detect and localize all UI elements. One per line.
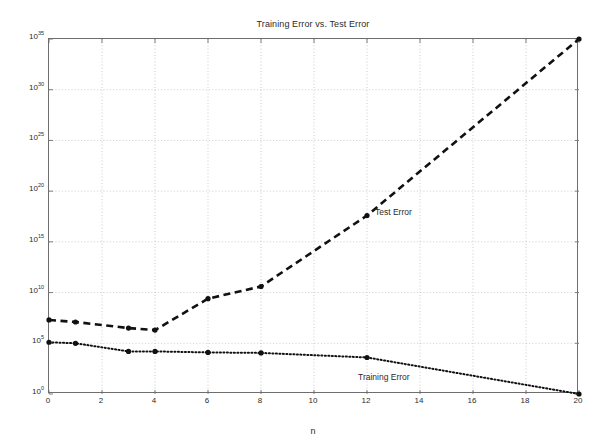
x-tick-label: 18 — [510, 397, 540, 405]
series-marker — [46, 317, 51, 322]
x-tick-label: 20 — [563, 397, 593, 405]
y-tick-label: 105 — [32, 337, 44, 345]
y-axis-tick-labels: 100105101010151020102510301035 — [0, 0, 44, 447]
series-marker — [46, 340, 51, 345]
y-tick-label: 1010 — [29, 287, 44, 295]
chart-figure: Training Error vs. Test Error 1001051010… — [0, 0, 605, 447]
series-annotation-test-error: Test Error — [375, 208, 412, 217]
series-annotation-training-error: Training Error — [358, 373, 410, 382]
y-tick-label: 1035 — [29, 33, 44, 41]
y-tick-label: 1020 — [29, 185, 44, 193]
x-tick-label: 16 — [457, 397, 487, 405]
series-marker — [126, 349, 131, 354]
x-axis-label: n — [48, 426, 578, 436]
series-marker — [576, 36, 581, 41]
y-tick-label: 1030 — [29, 84, 44, 92]
plot-canvas — [49, 39, 579, 394]
chart-title: Training Error vs. Test Error — [48, 19, 578, 29]
y-tick-label: 100 — [32, 388, 44, 396]
plot-area — [48, 38, 578, 393]
series-marker — [152, 328, 157, 333]
series-marker — [258, 284, 263, 289]
series-marker — [73, 319, 78, 324]
series-marker — [73, 341, 78, 346]
series-marker — [364, 355, 369, 360]
x-tick-label: 0 — [33, 397, 63, 405]
series-marker — [205, 296, 210, 301]
x-tick-label: 10 — [298, 397, 328, 405]
grid-lines — [49, 39, 579, 394]
x-tick-label: 4 — [139, 397, 169, 405]
series-marker — [364, 213, 369, 218]
series-line-1 — [49, 39, 579, 330]
series-marker — [258, 350, 263, 355]
x-tick-label: 6 — [192, 397, 222, 405]
series-marker — [126, 325, 131, 330]
y-tick-label: 1025 — [29, 134, 44, 142]
series-marker — [152, 349, 157, 354]
series-marker — [205, 350, 210, 355]
x-tick-label: 14 — [404, 397, 434, 405]
y-tick-label: 1015 — [29, 236, 44, 244]
x-tick-label: 12 — [351, 397, 381, 405]
x-tick-label: 2 — [86, 397, 116, 405]
x-tick-label: 8 — [245, 397, 275, 405]
